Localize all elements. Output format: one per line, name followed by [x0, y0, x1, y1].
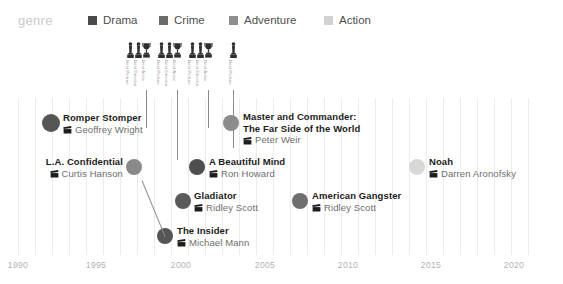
legend-item-label: Action [339, 14, 371, 26]
oscar-marker-label: Best Director [195, 60, 200, 87]
data-point-annotation: A Beautiful Mind Ron Howard [209, 156, 285, 180]
x-axis-tick: 2000 [171, 260, 191, 270]
oscar-marker-label: Best Actor [172, 60, 177, 81]
legend-swatch-icon [88, 16, 97, 25]
x-axis: 1990199520002005201020152020 [0, 255, 563, 284]
director-row: Michael Mann [177, 237, 249, 249]
director-row: Geoffrey Wright [63, 124, 143, 136]
director-name: Geoffrey Wright [75, 124, 143, 136]
legend-swatch-icon [324, 16, 333, 25]
oscar-marker-label: Best Director [164, 60, 169, 87]
oscar-trophy-icon [173, 42, 182, 59]
clapperboard-icon [50, 169, 59, 178]
oscar-trophy-icon [204, 42, 213, 59]
data-point-bubble[interactable] [42, 114, 60, 132]
data-point-annotation: American Gangster Ridley Scott [312, 190, 401, 214]
oscar-marker-label: Best Actor [141, 60, 146, 81]
director-name: Peter Weir [255, 134, 301, 146]
x-axis-tick: 2005 [255, 260, 275, 270]
director-name: Ridley Scott [324, 202, 376, 214]
x-axis-tick: 2015 [421, 260, 441, 270]
film-title: Master and Commander: [243, 111, 360, 123]
film-title: Romper Stomper [63, 112, 143, 124]
clapperboard-icon [177, 238, 186, 247]
film-title-line2: The Far Side of the World [243, 123, 360, 135]
clapperboard-icon [243, 136, 252, 145]
oscar-stem [208, 90, 209, 128]
data-point-annotation: Gladiator Ridley Scott [194, 190, 258, 214]
film-title: Gladiator [194, 190, 258, 202]
director-name: Darren Aronofsky [441, 168, 516, 180]
oscar-stem [146, 90, 147, 128]
clapperboard-icon [194, 203, 203, 212]
director-row: Ron Howard [209, 168, 285, 180]
legend-item-label: Adventure [244, 14, 296, 26]
director-row: Darren Aronofsky [429, 168, 516, 180]
legend-item-crime[interactable]: Crime [159, 14, 205, 26]
gridline [18, 98, 19, 255]
x-axis-tick: 2010 [338, 260, 358, 270]
film-title: American Gangster [312, 190, 401, 202]
director-name: Ridley Scott [206, 202, 258, 214]
oscar-marker-label: Best Picture [156, 60, 161, 85]
data-point-bubble[interactable] [175, 193, 191, 209]
director-row: Curtis Hanson [46, 168, 123, 180]
x-axis-tick: 1990 [8, 260, 28, 270]
director-row: Peter Weir [243, 134, 360, 146]
legend: genre DramaCrimeAdventureAction [0, 0, 563, 40]
data-point-annotation: The Insider Michael Mann [177, 225, 249, 249]
legend-item-label: Drama [103, 14, 138, 26]
film-title: A Beautiful Mind [209, 156, 285, 168]
data-point-bubble[interactable] [189, 159, 205, 175]
gridline [409, 98, 410, 255]
clapperboard-icon [209, 169, 218, 178]
director-row: Ridley Scott [312, 202, 401, 214]
plot-area: Best Picture Best Director Best Actor Be… [0, 40, 563, 255]
data-point-annotation: Master and Commander:The Far Side of the… [243, 111, 360, 146]
director-name: Curtis Hanson [62, 168, 124, 180]
clapperboard-icon [429, 169, 438, 178]
x-axis-tick: 1995 [86, 260, 106, 270]
gridline [35, 98, 36, 255]
clapperboard-icon [312, 203, 321, 212]
gridline [375, 98, 376, 255]
director-name: Ron Howard [221, 168, 275, 180]
oscar-statuette-icon [229, 42, 238, 59]
oscar-marker-label: Best Director [133, 60, 138, 87]
data-point-annotation: L.A. Confidential Curtis Hanson [46, 156, 123, 180]
gridline [426, 98, 427, 255]
legend-title: genre [18, 13, 53, 28]
oscar-trophy-icon [142, 42, 151, 59]
oscar-stem [177, 90, 178, 160]
oscar-marker-label: Best Picture [228, 60, 233, 85]
film-title: Noah [429, 156, 516, 168]
data-point-bubble[interactable] [409, 159, 425, 175]
director-row: Ridley Scott [194, 202, 258, 214]
data-point-bubble[interactable] [292, 193, 308, 209]
x-axis-tick: 2020 [504, 260, 524, 270]
legend-item-adventure[interactable]: Adventure [229, 14, 296, 26]
legend-swatch-icon [159, 16, 168, 25]
film-title: L.A. Confidential [46, 156, 123, 168]
gridline [528, 98, 529, 255]
data-point-annotation: Noah Darren Aronofsky [429, 156, 516, 180]
timeline-chart: genre DramaCrimeAdventureAction Best Pic… [0, 0, 563, 284]
oscar-marker-label: Best Picture [125, 60, 130, 85]
data-point-annotation: Romper Stomper Geoffrey Wright [63, 112, 143, 136]
director-name: Michael Mann [189, 237, 249, 249]
legend-item-action[interactable]: Action [324, 14, 371, 26]
gridline [154, 98, 155, 255]
gridline [392, 98, 393, 255]
film-title: The Insider [177, 225, 249, 237]
data-point-bubble[interactable] [126, 159, 142, 175]
oscar-marker-label: Best Picture [187, 60, 192, 85]
legend-swatch-icon [229, 16, 238, 25]
legend-item-drama[interactable]: Drama [88, 14, 138, 26]
data-point-bubble[interactable] [223, 115, 239, 131]
clapperboard-icon [63, 125, 72, 134]
legend-item-label: Crime [174, 14, 205, 26]
oscar-marker-label: Best Actor [203, 60, 208, 81]
